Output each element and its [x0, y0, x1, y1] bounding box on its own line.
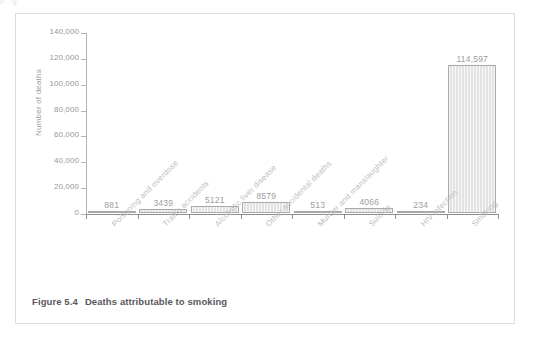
bar-slot: 114,597: [447, 32, 499, 213]
x-axis-tick-mark: [138, 214, 139, 219]
y-axis-tick-label: 20,000: [54, 182, 79, 191]
bar-value-label: 5121: [205, 195, 225, 205]
bar-chart: Number of deaths 020,00040,00060,00080,0…: [16, 14, 514, 286]
y-axis-tick-label: 0: [74, 208, 79, 217]
x-axis-tick-mark: [241, 214, 242, 219]
y-axis-title: Number of deaths: [34, 53, 43, 153]
figure-panel: Number of deaths 020,00040,00060,00080,0…: [15, 13, 515, 324]
bar-value-label: 234: [413, 200, 428, 210]
bar-value-label: 114,597: [457, 54, 489, 64]
bar-value-label: 513: [310, 200, 325, 210]
bar-value-label: 881: [104, 200, 119, 210]
bar-value-label: 8579: [256, 191, 276, 201]
page-top-cutoff-text: p , g: [0, 0, 541, 11]
bar-value-label: 4066: [359, 197, 379, 207]
plot-area: 020,00040,00060,00080,000100,000120,0001…: [86, 33, 498, 214]
bar-value-label: 3439: [153, 198, 173, 208]
figure-caption: Figure 5.4Deaths attributable to smoking: [32, 296, 227, 307]
x-axis-tick-mark: [447, 214, 448, 219]
x-axis-tick-mark: [395, 214, 396, 219]
y-axis-tick-label: 80,000: [54, 105, 79, 114]
y-axis-tick-label: 140,000: [49, 27, 79, 36]
y-axis-tick-label: 60,000: [54, 130, 79, 139]
x-axis-tick-mark: [498, 214, 499, 219]
x-axis-tick-mark: [189, 214, 190, 219]
figure-caption-number: Figure 5.4: [32, 296, 78, 307]
y-axis-tick-label: 40,000: [54, 156, 79, 165]
x-axis-tick-mark: [292, 214, 293, 219]
bar-slot: 881: [86, 32, 138, 213]
x-axis-tick-mark: [344, 214, 345, 219]
y-axis-tick-label: 100,000: [49, 79, 79, 88]
page-top-cutoff-text-content: p , g: [0, 0, 17, 6]
bar-slot: 234: [395, 32, 447, 213]
x-axis-tick-mark: [86, 214, 87, 219]
figure-caption-text: Deaths attributable to smoking: [85, 296, 227, 307]
y-axis-tick-label: 120,000: [49, 53, 79, 62]
